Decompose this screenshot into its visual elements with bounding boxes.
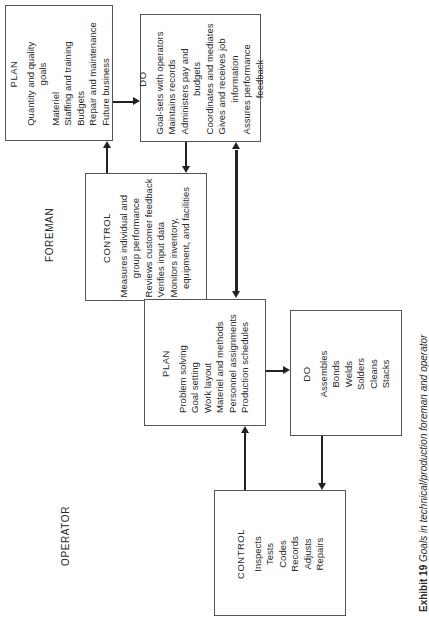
list-item: Production schedules bbox=[239, 314, 252, 413]
arrow-plan-to-do-foreman bbox=[113, 101, 133, 103]
list-item: Reviews customer feedback bbox=[143, 179, 156, 298]
list-item: goals bbox=[37, 22, 50, 126]
foreman-control-box: CONTROL Measures individual and group pe… bbox=[85, 173, 207, 301]
list-item: Problem solving bbox=[177, 314, 190, 413]
operator-plan-content: PLAN Problem solving Goal setting Work l… bbox=[145, 300, 267, 427]
arrowhead-right-icon bbox=[133, 97, 140, 105]
list-item: Future business bbox=[100, 22, 113, 126]
list-item: Records bbox=[289, 536, 302, 571]
list-item: budgets bbox=[191, 24, 204, 135]
list-item: Monitors inventory, bbox=[168, 179, 181, 298]
foreman-control-title: CONTROL bbox=[101, 213, 114, 263]
foreman-plan-title: PLAN bbox=[8, 61, 21, 88]
foreman-label: FOREMAN bbox=[44, 208, 55, 262]
list-item: Verifies input data bbox=[155, 179, 168, 298]
operator-control-title: CONTROL bbox=[235, 529, 248, 579]
list-item: Tests bbox=[264, 536, 277, 571]
list-item: Goal setting bbox=[189, 314, 202, 413]
operator-control-box: CONTROL Inspects Tests Codes Records Adj… bbox=[214, 490, 346, 616]
list-item: equipment, and facilities bbox=[180, 179, 193, 298]
figure-caption: Exhibit 19 Goals in technical/production… bbox=[418, 335, 429, 612]
foreman-do-box: DO Goal-sets with operators Maintains re… bbox=[140, 14, 261, 142]
operator-control-items: Inspects Tests Codes Records Adjusts Rep… bbox=[252, 536, 327, 571]
arrow-control-to-plan-operator bbox=[244, 433, 246, 490]
list-item: Personnel assignments bbox=[227, 314, 240, 413]
list-item: Welds bbox=[343, 351, 356, 397]
arrowhead-down-icon bbox=[182, 166, 190, 173]
operator-do-box: DO Assembles Bonds Welds Solders Cleans … bbox=[290, 310, 402, 436]
arrowhead-up-icon bbox=[232, 142, 240, 149]
list-item: Assembles bbox=[318, 351, 331, 397]
list-item: Coordinates and mediates bbox=[204, 24, 217, 135]
list-item: Adjusts bbox=[302, 536, 315, 571]
list-item: feedback bbox=[254, 24, 267, 135]
list-item: Budgets bbox=[75, 22, 88, 126]
operator-label: OPERATOR bbox=[60, 506, 71, 566]
list-item: Maintains records bbox=[166, 24, 179, 135]
list-item: Staffing and training bbox=[62, 22, 75, 126]
list-item: Repair and maintenance bbox=[87, 22, 100, 126]
list-item: Stacks bbox=[380, 351, 393, 397]
list-item: Administers pay and bbox=[179, 24, 192, 135]
list-item: Quantity and quality bbox=[25, 22, 38, 126]
operator-do-items: Assembles Bonds Welds Solders Cleans Sta… bbox=[318, 351, 393, 397]
foreman-plan-items: Quantity and quality goals Materiel Staf… bbox=[25, 22, 113, 126]
caption-label: Exhibit 19 bbox=[418, 565, 429, 612]
list-item: group performance bbox=[130, 179, 143, 298]
list-item: Goal-sets with operators bbox=[154, 24, 167, 135]
caption-text: Goals in technical/production foreman an… bbox=[418, 335, 429, 562]
list-item: Materiel bbox=[50, 22, 63, 126]
arrowhead-down-icon bbox=[318, 483, 326, 490]
arrow-do-to-control-foreman bbox=[185, 142, 187, 166]
arrowhead-up-icon bbox=[103, 141, 111, 148]
list-item: Gives and receives job bbox=[216, 24, 229, 135]
arrowhead-right-icon bbox=[283, 366, 290, 374]
foreman-control-items: Measures individual and group performanc… bbox=[118, 179, 193, 298]
operator-plan-box: PLAN Problem solving Goal setting Work l… bbox=[144, 299, 266, 426]
list-item: Inspects bbox=[252, 536, 265, 571]
list-item: Codes bbox=[277, 536, 290, 571]
arrow-foreman-operator-link bbox=[235, 150, 238, 291]
list-item: Measures individual and bbox=[118, 179, 131, 298]
foreman-do-items: Goal-sets with operators Maintains recor… bbox=[154, 24, 267, 135]
operator-plan-title: PLAN bbox=[160, 350, 173, 377]
foreman-plan-box: PLAN Quantity and quality goals Materiel… bbox=[5, 5, 113, 141]
list-item: Cleans bbox=[368, 351, 381, 397]
foreman-do-content: DO Goal-sets with operators Maintains re… bbox=[141, 15, 262, 143]
arrow-plan-to-do-operator bbox=[266, 370, 283, 372]
operator-do-content: DO Assembles Bonds Welds Solders Cleans … bbox=[291, 311, 403, 437]
list-item: Work layout bbox=[202, 314, 215, 413]
foreman-control-content: CONTROL Measures individual and group pe… bbox=[86, 174, 208, 302]
list-item: Bonds bbox=[330, 351, 343, 397]
list-item: information bbox=[229, 24, 242, 135]
foreman-plan-content: PLAN Quantity and quality goals Materiel… bbox=[6, 6, 114, 142]
operator-control-content: CONTROL Inspects Tests Codes Records Adj… bbox=[215, 491, 347, 617]
arrowhead-down-icon bbox=[232, 291, 240, 298]
list-item: Repairs bbox=[314, 536, 327, 571]
list-item: Solders bbox=[355, 351, 368, 397]
operator-do-title: DO bbox=[301, 366, 314, 381]
operator-plan-items: Problem solving Goal setting Work layout… bbox=[177, 314, 252, 413]
list-item: Materiel and methods bbox=[214, 314, 227, 413]
arrow-do-to-control-operator bbox=[321, 436, 323, 483]
arrowhead-up-icon bbox=[241, 426, 249, 433]
arrow-control-to-plan-foreman bbox=[106, 148, 108, 173]
foreman-do-title: DO bbox=[137, 71, 150, 86]
list-item: Assures performance bbox=[241, 24, 254, 135]
